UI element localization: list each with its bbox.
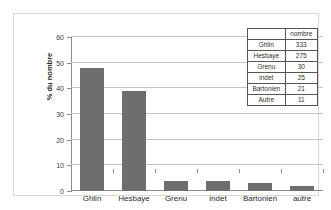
- table-cell-value: 21: [285, 84, 317, 95]
- x-axis-tick-labels: GhlinHesbayeGrenuindetBartonienautre: [71, 195, 323, 209]
- table-cell-value: 275: [285, 51, 317, 62]
- bar-slot: [113, 37, 155, 191]
- table-cell-label: Autre: [248, 95, 286, 106]
- data-table: nombre Ghlin333Hesbaye275Grenu30indet25B…: [247, 28, 318, 106]
- y-axis-tick-mark: [67, 140, 71, 141]
- x-axis-tick-label: Grenu: [165, 195, 187, 203]
- figure-container: % du nombre 0102030405060 GhlinHesbayeGr…: [0, 0, 331, 210]
- chart-frame: % du nombre 0102030405060 GhlinHesbayeGr…: [13, 13, 319, 196]
- y-axis-tick-labels: 0102030405060: [40, 37, 64, 191]
- table-row: Bartonien21: [248, 84, 318, 95]
- x-axis-tick-mark: [197, 169, 198, 173]
- y-axis-tick-label: 20: [56, 136, 64, 143]
- y-axis-tick-mark: [67, 63, 71, 64]
- bar-bartonien: [248, 183, 272, 191]
- table-header-row: nombre: [248, 29, 318, 40]
- bar-hesbaye: [122, 91, 146, 191]
- x-axis-tick-mark: [155, 169, 156, 173]
- x-axis-tick-label: Hesbaye: [118, 195, 150, 203]
- x-axis-tick-label: Bartonien: [243, 195, 277, 203]
- x-axis-tick-label: indet: [209, 195, 226, 203]
- table-row: Grenu30: [248, 62, 318, 73]
- table-row: Autre11: [248, 95, 318, 106]
- table-column-header-nombre: nombre: [285, 29, 317, 40]
- y-axis-tick-label: 50: [56, 59, 64, 66]
- table-cell-label: Bartonien: [248, 84, 286, 95]
- y-axis-tick-mark: [67, 191, 71, 192]
- bar-slot: [71, 37, 113, 191]
- table-corner-cell: [248, 29, 286, 40]
- table-cell-label: indet: [248, 73, 286, 84]
- table-cell-value: 30: [285, 62, 317, 73]
- table-cell-label: Grenu: [248, 62, 286, 73]
- table-cell-value: 333: [285, 40, 317, 51]
- y-axis-tick-label: 10: [56, 162, 64, 169]
- y-axis-tick-mark: [67, 165, 71, 166]
- table-header-group: nombre: [248, 29, 318, 40]
- table-row: indet25: [248, 73, 318, 84]
- table-row: Hesbaye275: [248, 51, 318, 62]
- bar-autre: [290, 186, 314, 191]
- bar-slot: [197, 37, 239, 191]
- table-cell-value: 11: [285, 95, 317, 106]
- x-axis-tick-mark: [323, 169, 324, 173]
- y-axis-tick-label: 0: [60, 188, 64, 195]
- y-axis-tick-mark: [67, 37, 71, 38]
- x-axis-tick-label: Ghlin: [83, 195, 102, 203]
- y-axis-tick-mark: [67, 114, 71, 115]
- bar-slot: [155, 37, 197, 191]
- table-body: Ghlin333Hesbaye275Grenu30indet25Bartonie…: [248, 40, 318, 106]
- table-cell-label: Ghlin: [248, 40, 286, 51]
- x-axis-tick-mark: [281, 169, 282, 173]
- bar-indet: [206, 181, 230, 191]
- bar-grenu: [164, 181, 188, 191]
- y-axis-tick-mark: [67, 88, 71, 89]
- x-axis-tick-mark: [113, 169, 114, 173]
- x-axis-tick-label: autre: [293, 195, 311, 203]
- table-cell-value: 25: [285, 73, 317, 84]
- y-axis-tick-label: 40: [56, 85, 64, 92]
- y-axis-tick-label: 60: [56, 34, 64, 41]
- table-cell-label: Hesbaye: [248, 51, 286, 62]
- y-axis-tick-label: 30: [56, 111, 64, 118]
- table-row: Ghlin333: [248, 40, 318, 51]
- bar-ghlin: [80, 68, 104, 191]
- x-axis-tick-mark: [239, 169, 240, 173]
